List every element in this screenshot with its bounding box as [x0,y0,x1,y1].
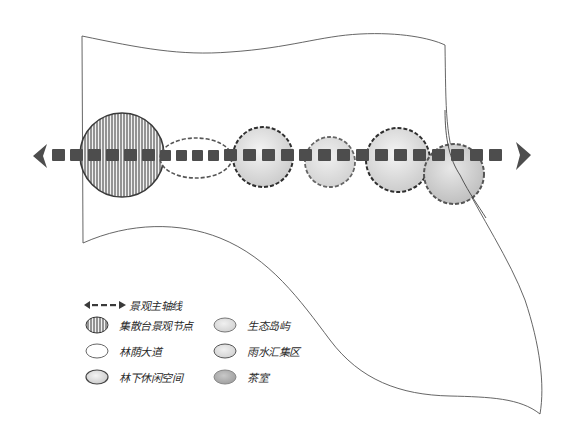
axis-arrow-right-icon [516,142,531,170]
dashed-arrow-icon [84,300,126,310]
legend-item-eco-island: 生态岛屿 [212,314,289,336]
legend: 景观主轴线 集散台景观节点 林荫大道 林下休闲空间 生态岛屿 雨水汇集区 [84,294,324,394]
mid-grey-circle-icon [212,368,238,386]
legend-item-boulevard: 林荫大道 [84,340,161,362]
axis-arrow-left-icon [33,144,47,168]
node-eco-island [305,137,355,187]
legend-label: 雨水汇集区 [247,343,300,359]
legend-item-forest-leisure: 林下休闲空间 [84,366,182,388]
legend-label: 集散台景观节点 [119,317,193,333]
legend-item-gathering-platform: 集散台景观节点 [84,314,193,336]
legend-item-tea-room: 茶室 [212,366,268,388]
legend-label: 景观主轴线 [129,297,182,313]
legend-label: 茶室 [247,369,268,385]
white-circle-icon [84,342,110,360]
pale-grey-circle-icon [212,316,238,334]
grey-circle-icon [84,368,110,386]
legend-item-rainwater-area: 雨水汇集区 [212,340,300,362]
legend-label: 生态岛屿 [247,317,289,333]
legend-item-axis: 景观主轴线 [84,294,182,316]
pale-grey-circle-icon [212,342,238,360]
hatched-circle-icon [84,316,110,334]
legend-label: 林荫大道 [119,343,161,359]
legend-label: 林下休闲空间 [119,369,182,385]
